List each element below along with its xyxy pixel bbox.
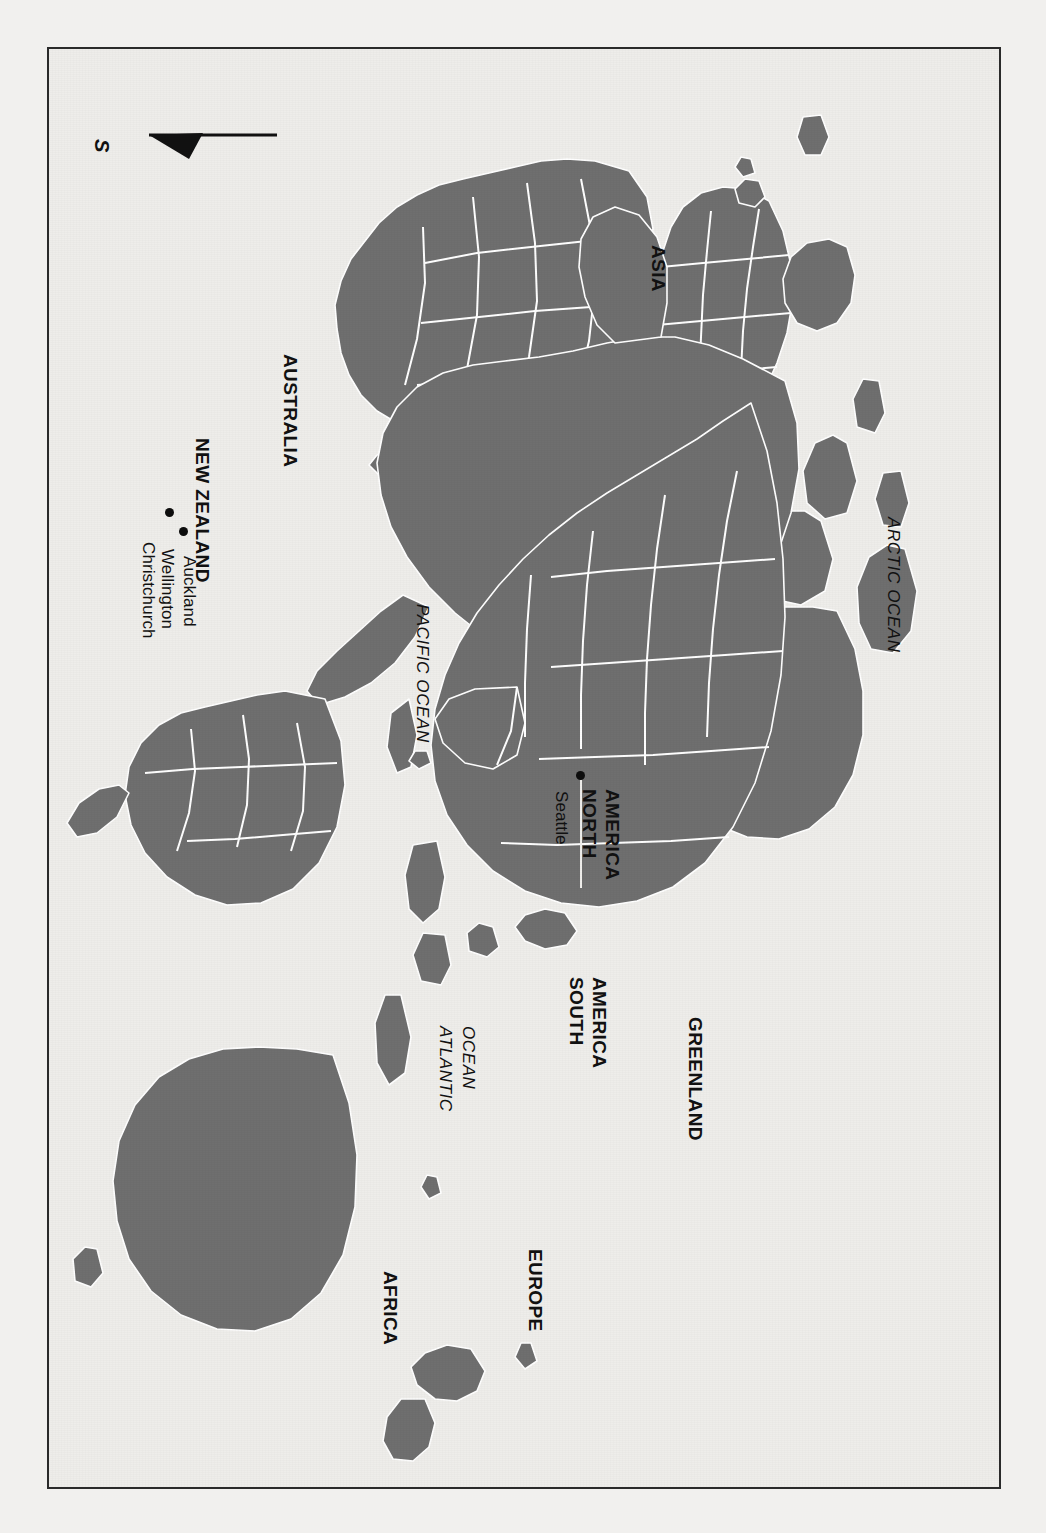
city-dot-wellington [179, 527, 188, 536]
label-wellington: Wellington [158, 549, 177, 629]
label-south-america-line2: AMERICA [589, 977, 610, 1068]
map-page: S ASIA AUSTRALIA NEW ZEALAND Christchurc… [0, 0, 1046, 1533]
label-atlantic-ocean-line2: OCEAN [459, 1026, 478, 1089]
australia-landmass [113, 1047, 357, 1331]
label-north-america-line1: NORTH [579, 789, 600, 859]
label-atlantic-ocean-line1: ATLANTIC [436, 1026, 455, 1112]
label-auckland: Auckland [180, 556, 199, 627]
map-frame: S ASIA AUSTRALIA NEW ZEALAND Christchurc… [47, 47, 1001, 1489]
city-dot-seattle [576, 771, 585, 780]
label-asia: ASIA [648, 245, 669, 292]
label-arctic-ocean: ARCTIC OCEAN [884, 517, 903, 653]
label-seattle: Seattle [552, 791, 571, 845]
label-africa: AFRICA [380, 1271, 401, 1345]
label-south-america-line1: SOUTH [566, 977, 587, 1046]
compass-direction-label: S [90, 139, 113, 152]
compass-arrow-icon [111, 111, 281, 181]
label-australia: AUSTRALIA [280, 354, 301, 467]
label-christchurch: Christchurch [139, 542, 158, 639]
label-europe: EUROPE [525, 1249, 546, 1332]
label-pacific-ocean: PACIFIC OCEAN [413, 604, 432, 743]
label-greenland: GREENLAND [685, 1017, 706, 1141]
compass-rose: S [111, 111, 281, 181]
city-dot-christchurch [165, 508, 174, 517]
label-north-america-line2: AMERICA [602, 789, 623, 880]
